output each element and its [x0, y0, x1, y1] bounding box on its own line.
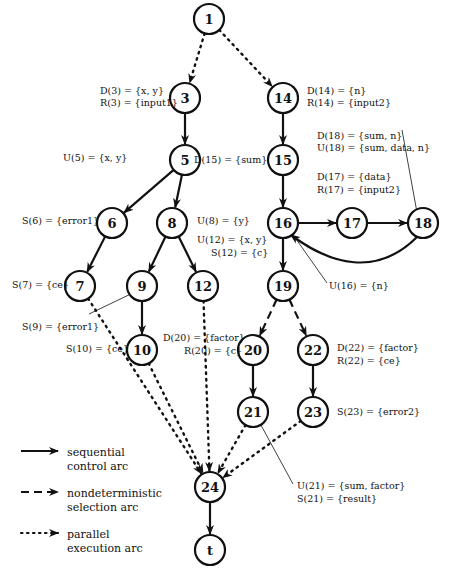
node-label: 17	[343, 216, 361, 231]
leader-line-21	[256, 416, 293, 484]
annotation-u5: U(5) = {x, y}	[63, 152, 127, 163]
node-label: 18	[414, 216, 432, 231]
node-label: 14	[274, 91, 292, 106]
annotation-d15: D(15) = {sum}	[194, 154, 267, 165]
edge-19-to-20	[260, 300, 277, 336]
annotation-s12: S(12) = {c}	[211, 247, 268, 258]
edge-1-to-14	[219, 30, 272, 86]
node-9: 9	[127, 271, 157, 301]
legend-sequential: sequential control arc	[21, 446, 128, 473]
legend-parallel-line1: parallel	[67, 528, 110, 541]
annotation-s6: S(6) = {error1}	[22, 215, 99, 226]
node-label: 21	[244, 405, 262, 420]
node-12: 12	[188, 271, 218, 301]
legend-sequential-line2: control arc	[67, 460, 128, 473]
node-t: t	[195, 535, 225, 565]
node-22: 22	[298, 335, 328, 365]
node-label: 19	[274, 279, 292, 294]
node-label: 1	[204, 12, 213, 27]
node-label: 6	[107, 216, 116, 231]
annotation-d14: D(14) = {n}	[307, 85, 366, 96]
node-15: 15	[268, 145, 298, 175]
node-label: t	[207, 543, 213, 558]
annotation-s7: S(7) = {ce}	[12, 279, 69, 290]
edge-5-to-8	[175, 175, 182, 208]
leader-line-16	[289, 229, 327, 283]
annotation-s21: S(21) = {result}	[297, 493, 377, 504]
node-label: 12	[194, 279, 212, 294]
legend-sequential-line1: sequential	[67, 446, 125, 459]
edge-21-to-24	[218, 425, 246, 473]
node-8: 8	[157, 208, 187, 238]
node-1: 1	[194, 4, 224, 34]
annotation-r3: R(3) = {input1}	[100, 97, 178, 108]
legend-parallel-line2: execution arc	[67, 542, 143, 555]
edge-8-to-9	[149, 237, 166, 272]
annotation-u8: U(8) = {y}	[197, 215, 250, 226]
node-7: 7	[65, 271, 95, 301]
annotation-d22: D(22) = {factor}	[337, 342, 419, 353]
legend: sequential control arc nondeterministic …	[21, 446, 162, 555]
annotation-r17: R(17) = {input2}	[317, 184, 401, 195]
node-label: 16	[274, 216, 292, 231]
node-label: 10	[133, 343, 151, 358]
node-17: 17	[337, 208, 367, 238]
node-label: 7	[75, 279, 84, 294]
node-21: 21	[238, 397, 268, 427]
edge-19-to-22	[289, 300, 306, 336]
edge-5-to-6	[124, 170, 174, 213]
node-24: 24	[195, 472, 225, 502]
annotation-d20: D(20) = {factor}	[163, 332, 245, 343]
annotation-u12: U(12) = {x, y}	[197, 234, 267, 245]
node-6: 6	[97, 208, 127, 238]
node-19: 19	[268, 271, 298, 301]
node-label: 22	[304, 343, 322, 358]
node-label: 15	[274, 153, 292, 168]
node-16: 16	[268, 208, 298, 238]
edge-10-to-24	[149, 363, 203, 472]
annotation-s9: S(9) = {error1}	[22, 321, 99, 332]
node-label: 23	[304, 405, 322, 420]
edge-6-to-7	[87, 236, 105, 271]
node-14: 14	[268, 83, 298, 113]
edge-1-to-3	[190, 33, 205, 82]
annotation-u16: U(16) = {n}	[329, 280, 389, 291]
node-label: 3	[180, 91, 189, 106]
node-label: 8	[167, 216, 176, 231]
node-label: 20	[244, 343, 262, 358]
annotation-r14: R(14) = {input2}	[307, 97, 391, 108]
annotation-r22: R(22) = {ce}	[337, 355, 401, 366]
annotation-r20: R(20) = {c}	[184, 345, 242, 356]
annotation-d3: D(3) = {x, y}	[100, 85, 164, 96]
legend-parallel: parallel execution arc	[21, 528, 143, 555]
node-label: 24	[201, 480, 219, 495]
annotation-s10: S(10) = {ce}	[66, 343, 129, 354]
edge-12-to-24	[204, 301, 210, 471]
node-18: 18	[408, 208, 438, 238]
edge-8-to-12	[179, 236, 196, 271]
annotation-s23: S(23) = {error2}	[337, 406, 420, 417]
legend-nondeterministic-line2: selection arc	[67, 501, 138, 514]
edge-23-to-24	[223, 421, 301, 478]
annotation-d18: D(18) = {sum, n}	[317, 130, 402, 141]
legend-nondeterministic: nondeterministic selection arc	[21, 487, 162, 514]
annotation-d17: D(17) = {data}	[317, 171, 391, 182]
node-10: 10	[127, 335, 157, 365]
node-label: 5	[180, 153, 189, 168]
legend-nondeterministic-line1: nondeterministic	[67, 487, 162, 500]
annotation-u18: U(18) = {sum, data, n}	[317, 142, 430, 153]
control-flow-diagram: 131451568161718791219102022212324t D(3) …	[0, 0, 451, 575]
annotation-u21: U(21) = {sum, factor}	[297, 480, 405, 491]
node-23: 23	[298, 397, 328, 427]
node-label: 9	[137, 279, 146, 294]
